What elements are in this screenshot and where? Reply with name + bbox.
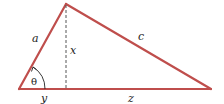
triangle-diagram: a x c θ y z [0, 0, 224, 104]
side-a [19, 4, 66, 89]
label-theta: θ [31, 76, 37, 87]
label-c: c [138, 30, 144, 43]
label-x: x [70, 44, 77, 57]
label-a: a [32, 32, 39, 45]
side-c [66, 4, 211, 89]
label-y: y [40, 92, 48, 104]
theta-arrow-icon [32, 67, 37, 72]
label-z: z [127, 92, 134, 104]
